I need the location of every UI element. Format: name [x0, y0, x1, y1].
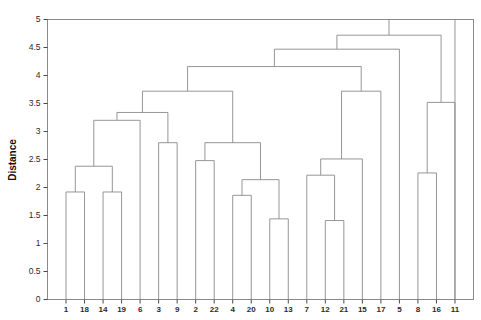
leaf-label-10: 10 — [265, 305, 274, 314]
leaf-label-13: 13 — [284, 305, 293, 314]
leaf-label-1: 1 — [64, 305, 69, 314]
y-tick-label: 5 — [36, 14, 41, 24]
dendrogram-link — [94, 120, 140, 299]
leaf-label-19: 19 — [117, 305, 126, 314]
dendrogram-link — [325, 221, 344, 300]
leaf-label-21: 21 — [339, 305, 348, 314]
y-tick-label: 2 — [36, 182, 41, 192]
dendrogram-link — [337, 35, 441, 102]
dendrogram-link — [233, 195, 252, 299]
y-tick-label: 0.5 — [29, 266, 41, 276]
dendrogram-link — [242, 180, 279, 219]
leaf-label-4: 4 — [230, 305, 235, 314]
y-tick-label: 4 — [36, 70, 41, 80]
leaf-label-5: 5 — [397, 305, 402, 314]
dendrogram-link — [342, 91, 381, 299]
dendrogram-link — [103, 192, 122, 300]
leaf-label-14: 14 — [99, 305, 108, 314]
y-tick-label: 3 — [36, 126, 41, 136]
dendrogram-link — [205, 143, 261, 180]
dendrogram-link — [75, 166, 112, 192]
dendrogram-link — [142, 91, 232, 143]
y-tick-label: 2.5 — [29, 154, 41, 164]
leaf-label-8: 8 — [416, 305, 421, 314]
y-tick-label: 3.5 — [29, 98, 41, 108]
leaf-label-22: 22 — [210, 305, 219, 314]
dendrogram-links — [66, 20, 455, 300]
y-tick-label: 1 — [36, 238, 41, 248]
dendrogram-link — [307, 175, 335, 299]
dendrogram-link — [427, 102, 455, 299]
dendrogram-link — [117, 112, 168, 142]
dendrogram-link — [188, 67, 362, 92]
dendrogram-link — [159, 143, 178, 300]
y-tick-label: 4.5 — [29, 42, 41, 52]
leaf-label-12: 12 — [321, 305, 330, 314]
dendrogram-plot: 00.511.522.533.544.55 118141963922242010… — [0, 0, 481, 320]
leaf-label-11: 11 — [451, 305, 460, 314]
leaf-label-6: 6 — [138, 305, 143, 314]
leaf-label-9: 9 — [175, 305, 180, 314]
leaf-label-16: 16 — [432, 305, 441, 314]
dendrogram-link — [196, 161, 215, 300]
dendrogram-link — [389, 20, 455, 300]
leaf-label-7: 7 — [305, 305, 310, 314]
y-axis: 00.511.522.533.544.55 — [29, 14, 48, 304]
leaf-label-15: 15 — [358, 305, 367, 314]
y-axis-title-group: Distance — [7, 139, 18, 181]
dendrogram-link — [418, 173, 437, 300]
dendrogram-link — [66, 192, 85, 300]
leaf-label-17: 17 — [376, 305, 385, 314]
dendrogram-chart: 00.511.522.533.544.55 118141963922242010… — [0, 0, 481, 320]
leaf-label-20: 20 — [247, 305, 256, 314]
y-tick-label: 1.5 — [29, 210, 41, 220]
leaf-label-3: 3 — [156, 305, 161, 314]
leaf-label-18: 18 — [80, 305, 89, 314]
leaf-label-2: 2 — [193, 305, 198, 314]
y-axis-title: Distance — [7, 139, 18, 181]
dendrogram-link — [321, 159, 363, 300]
dendrogram-link — [270, 219, 289, 300]
x-axis: 11814196392224201013712211517581611 — [64, 300, 460, 315]
y-tick-label: 0 — [36, 294, 41, 304]
